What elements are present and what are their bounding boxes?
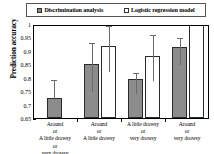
- legend-entry-logistic-regression-model: Logistic regression model: [124, 7, 195, 14]
- error-bar: [136, 73, 137, 94]
- x-axis-label-line: very drowsy: [42, 150, 69, 154]
- x-axis-label-line: A little drowsy: [39, 135, 71, 141]
- x-axis-label-line: or: [53, 143, 57, 149]
- x-axis-label: AroundorA little drowsyorvery drowsy: [33, 121, 77, 154]
- x-axis-label-line: or: [141, 128, 145, 134]
- y-tick-label: 1: [1, 22, 31, 28]
- error-bar: [153, 35, 154, 81]
- x-axis-label-line: very drowsy: [130, 135, 157, 141]
- x-axis-label-line: Around: [91, 121, 108, 127]
- y-tick-label: 0.75: [1, 89, 31, 95]
- x-axis-label-line: A little drowsy: [127, 121, 159, 127]
- bar-group: [166, 26, 209, 118]
- y-tick-label: 0.8: [1, 76, 31, 82]
- y-tick-label: 0.95: [1, 35, 31, 41]
- chart-legend: Discrimination analysis Logistic regress…: [26, 3, 206, 17]
- legend-label-logistic-regression-model: Logistic regression model: [131, 7, 195, 14]
- legend-label-discrimination-analysis: Discrimination analysis: [44, 7, 103, 14]
- open-square-icon: [124, 8, 129, 13]
- x-axis-label-line: Around: [179, 121, 196, 127]
- chart-figure: Discrimination analysis Logistic regress…: [0, 0, 214, 154]
- x-axis-label-line: very drowsy: [174, 135, 201, 141]
- x-axis-label: Aroundorvery drowsy: [165, 121, 209, 143]
- legend-entry-discrimination-analysis: Discrimination analysis: [37, 7, 103, 14]
- x-axis-label-line: A little drowsy: [83, 135, 115, 141]
- error-bar-cap-upper: [133, 73, 139, 74]
- x-axis-label-line: Around: [47, 121, 64, 127]
- filled-square-icon: [37, 8, 42, 13]
- plot-area: [33, 25, 209, 119]
- error-bar: [109, 26, 110, 72]
- bar: [47, 98, 62, 118]
- error-bar: [180, 38, 181, 65]
- x-axis-label-line: or: [53, 128, 57, 134]
- y-tick-label: 0.65: [1, 116, 31, 122]
- x-axis-label: AroundorA little drowsy: [77, 121, 121, 143]
- error-bar: [92, 43, 93, 91]
- error-bar-cap-upper: [89, 43, 95, 44]
- y-tick-label: 0.9: [1, 49, 31, 55]
- bar-group: [78, 26, 122, 118]
- y-tick-label: 0.7: [1, 103, 31, 109]
- error-bar-cap-upper: [51, 80, 57, 81]
- bar: [189, 25, 204, 118]
- x-axis-label-line: or: [97, 128, 101, 134]
- bar-group: [122, 26, 166, 118]
- x-axis-label-line: or: [185, 128, 189, 134]
- y-tick-mark: [33, 119, 36, 120]
- error-bar-cap-upper: [106, 26, 112, 27]
- error-bar-cap-upper: [177, 38, 183, 39]
- error-bar-cap-upper: [150, 35, 156, 36]
- bar-group: [34, 26, 78, 118]
- y-tick-label: 0.85: [1, 62, 31, 68]
- x-axis-label: A little drowsyorvery drowsy: [121, 121, 165, 143]
- error-bar: [54, 80, 55, 100]
- x-axis-labels: AroundorA little drowsyorvery drowsyArou…: [33, 121, 209, 154]
